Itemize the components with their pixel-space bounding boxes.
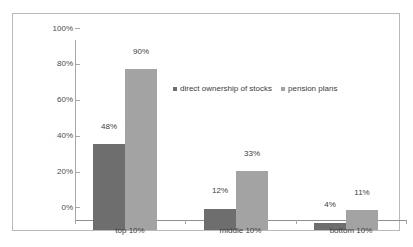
bar-value-label: 33% <box>236 149 268 158</box>
y-axis-tick-label: 40% <box>29 131 73 140</box>
x-axis-category-label: top 10% <box>75 226 185 236</box>
bar-value-label: 4% <box>314 200 346 209</box>
x-axis-category-label: middle 10% <box>185 226 296 236</box>
x-axis-tick <box>185 220 186 224</box>
legend-item-direct-ownership[interactable]: direct ownership of stocks <box>173 84 272 93</box>
y-axis-tick <box>75 64 80 65</box>
bar-series2-cat1 <box>125 69 157 230</box>
x-axis-category-label: bottom 10% <box>296 226 406 236</box>
y-axis-tick <box>75 136 80 137</box>
y-axis-tick <box>75 28 80 29</box>
x-axis-tick <box>296 220 297 224</box>
bar-series1-cat1 <box>93 144 125 230</box>
square-swatch-icon <box>173 87 177 91</box>
legend-item-label: direct ownership of stocks <box>180 84 272 93</box>
x-axis-tick <box>406 220 407 224</box>
y-axis-tick-label: 0% <box>29 203 73 212</box>
y-axis-tick <box>75 172 80 173</box>
bar-value-label: 90% <box>125 47 157 56</box>
bar-value-label: 12% <box>204 186 236 195</box>
y-axis-labels: 100% 80% 60% 40% 20% 0% <box>25 14 73 230</box>
y-axis-tick <box>75 207 80 208</box>
bar-value-label: 48% <box>93 122 125 131</box>
bar-value-label: 11% <box>346 188 378 197</box>
bar-series2-cat2 <box>236 171 268 230</box>
y-axis-tick-label: 80% <box>29 59 73 68</box>
square-swatch-icon <box>281 87 285 91</box>
y-axis-tick <box>75 100 80 101</box>
legend-item-label: pension plans <box>288 84 337 93</box>
chart-frame: 100% 80% 60% 40% 20% 0% 48% 90% 12% 33% … <box>12 13 400 231</box>
y-axis-tick-label: 100% <box>29 24 73 33</box>
y-axis-line <box>75 40 76 221</box>
y-axis-tick-label: 20% <box>29 167 73 176</box>
y-axis-tick-label: 60% <box>29 95 73 104</box>
x-axis-tick <box>75 220 76 224</box>
legend-item-pension-plans[interactable]: pension plans <box>281 84 337 93</box>
chart-legend: direct ownership of stocks pension plans <box>173 84 337 93</box>
